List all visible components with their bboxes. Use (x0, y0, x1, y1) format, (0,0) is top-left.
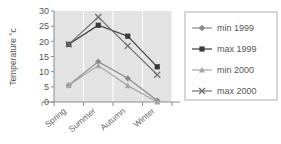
y-axis-tick-label: 10 (39, 67, 49, 77)
x-axis-category-label: Autumn (98, 106, 127, 133)
y-axis-tick-label: 25 (39, 21, 49, 31)
data-point-marker-square (155, 64, 160, 69)
data-point-marker-square (125, 34, 130, 39)
y-axis-tick-label: 20 (39, 37, 49, 47)
x-axis-category-label: Spring (43, 106, 68, 130)
y-axis-tick-label: 0 (44, 97, 49, 107)
x-axis-category-label: Winter (131, 106, 156, 130)
y-axis-title: Temperature °c (8, 27, 18, 85)
chart-svg: 051015202530 Temperature °c SpringSummer… (0, 0, 281, 144)
legend-item-label: max 2000 (217, 86, 257, 96)
y-axis-tick-label: 30 (39, 6, 49, 16)
x-axis-category-labels: SpringSummerAutumnWinter (43, 106, 157, 134)
legend-item-label: min 2000 (217, 65, 254, 75)
y-axis-tick-label: 5 (44, 82, 49, 92)
temperature-line-chart: 051015202530 Temperature °c SpringSummer… (0, 0, 281, 144)
x-axis-ticks (42, 102, 172, 106)
y-axis-tick-label: 15 (39, 52, 49, 62)
legend-item-label: min 1999 (217, 23, 254, 33)
x-axis-category-label: Summer (66, 106, 97, 134)
data-point-marker-square (96, 23, 101, 28)
data-point-marker-square (199, 46, 204, 51)
y-axis-ticks: 051015202530 (39, 6, 54, 107)
legend-item-label: max 1999 (217, 44, 257, 54)
